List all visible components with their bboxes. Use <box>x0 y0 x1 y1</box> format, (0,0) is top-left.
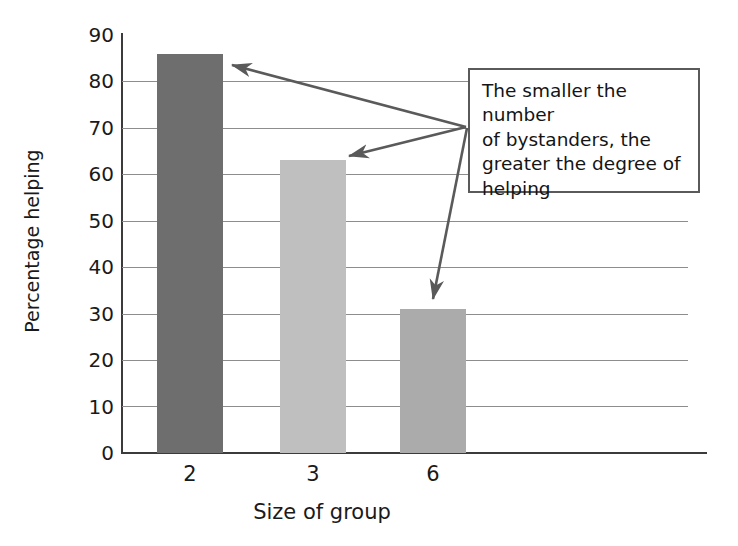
bar-group-2 <box>157 54 223 453</box>
annotation-line-1: The smaller the number <box>482 79 688 128</box>
y-tick-40: 40 <box>68 257 114 277</box>
y-tick-10: 10 <box>68 397 114 417</box>
y-tick-70: 70 <box>68 118 114 138</box>
y-tick-20: 20 <box>68 350 114 370</box>
bar-group-6 <box>400 309 466 453</box>
y-axis-title: Percentage helping <box>21 141 43 341</box>
x-tick-6: 6 <box>400 462 466 486</box>
y-tick-30: 30 <box>68 304 114 324</box>
x-tick-2: 2 <box>157 462 223 486</box>
x-axis-title: Size of group <box>122 500 522 524</box>
bar-chart: Percentage helping 90 80 70 60 50 40 30 … <box>0 0 738 546</box>
y-axis-tick-labels: 90 80 70 60 50 40 30 20 10 0 <box>58 35 114 453</box>
y-tick-0: 0 <box>68 443 114 463</box>
annotation-callout: The smaller the number of bystanders, th… <box>468 68 700 193</box>
annotation-line-2: of bystanders, the <box>482 128 688 152</box>
annotation-line-3: greater the degree of <box>482 152 688 176</box>
y-tick-80: 80 <box>68 71 114 91</box>
annotation-line-4: helping <box>482 177 688 201</box>
y-tick-90: 90 <box>68 25 114 45</box>
bar-group-3 <box>280 160 346 453</box>
y-tick-50: 50 <box>68 211 114 231</box>
x-tick-3: 3 <box>280 462 346 486</box>
y-tick-60: 60 <box>68 164 114 184</box>
